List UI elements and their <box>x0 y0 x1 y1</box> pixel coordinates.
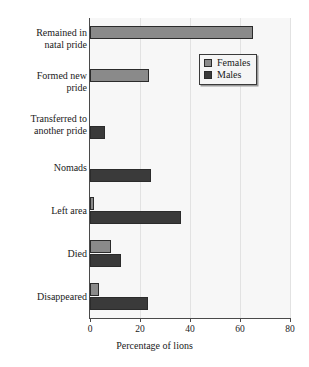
legend-label-females: Females <box>217 57 250 69</box>
bar-males <box>90 297 148 310</box>
category-label-line: Formed new <box>0 70 87 82</box>
bar-males <box>90 254 121 267</box>
bar-males <box>90 211 181 224</box>
category-label-line: Remained in <box>0 27 87 39</box>
chart-legend: Females Males <box>199 54 257 85</box>
chart-figure: Remained innatal prideFormed newprideTra… <box>0 0 309 367</box>
x-axis-tick <box>240 318 241 322</box>
x-axis-tick <box>140 318 141 322</box>
x-axis-tick-label: 80 <box>285 323 295 335</box>
category-label-line: pride <box>0 82 87 94</box>
category-label-line: Transferred to <box>0 113 87 125</box>
category-label: Formed newpride <box>0 70 87 94</box>
category-label: Remained innatal pride <box>0 27 87 51</box>
category-label-line: Disappeared <box>0 291 87 303</box>
bar-females <box>90 26 253 39</box>
legend-label-males: Males <box>217 69 241 81</box>
bar-males <box>90 126 105 139</box>
x-axis-tick-label: 20 <box>135 323 145 335</box>
bar-females <box>90 283 99 296</box>
category-label-line: natal pride <box>0 39 87 51</box>
bar-females <box>90 197 94 210</box>
category-label: Disappeared <box>0 291 87 303</box>
x-axis-tick <box>90 318 91 322</box>
legend-swatch-females-icon <box>204 59 212 67</box>
x-axis-tick <box>290 318 291 322</box>
legend-item-males: Males <box>204 69 250 81</box>
x-axis-tick-label: 40 <box>185 323 195 335</box>
category-label-line: Nomads <box>0 162 87 174</box>
category-label-line: another pride <box>0 125 87 137</box>
x-axis-tick-label: 0 <box>88 323 93 335</box>
gridline <box>190 18 191 318</box>
legend-item-females: Females <box>204 57 250 69</box>
category-label-line: Died <box>0 248 87 260</box>
x-axis-tick-label: 60 <box>235 323 245 335</box>
category-label: Transferred toanother pride <box>0 113 87 137</box>
x-axis-tick <box>190 318 191 322</box>
bar-males <box>90 169 151 182</box>
category-label: Nomads <box>0 162 87 174</box>
bar-females <box>90 240 111 253</box>
category-label: Died <box>0 248 87 260</box>
category-label: Left area <box>0 205 87 217</box>
x-axis-title: Percentage of lions <box>0 340 309 351</box>
category-label-line: Left area <box>0 205 87 217</box>
legend-swatch-males-icon <box>204 71 212 79</box>
gridline <box>290 18 291 318</box>
bar-females <box>90 69 149 82</box>
